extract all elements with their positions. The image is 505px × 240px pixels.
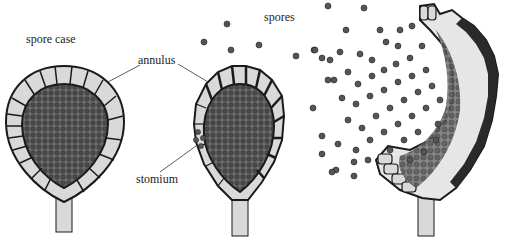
label-stomium: stomium <box>136 172 178 187</box>
label-spore-case: spore case <box>26 32 76 47</box>
label-spores: spores <box>264 10 295 25</box>
label-annulus: annulus <box>138 53 175 68</box>
closed-spore-case <box>6 66 124 232</box>
released-spore-case <box>376 4 498 236</box>
sporangium-diagram <box>0 0 505 240</box>
opening-spore-case <box>193 66 284 236</box>
